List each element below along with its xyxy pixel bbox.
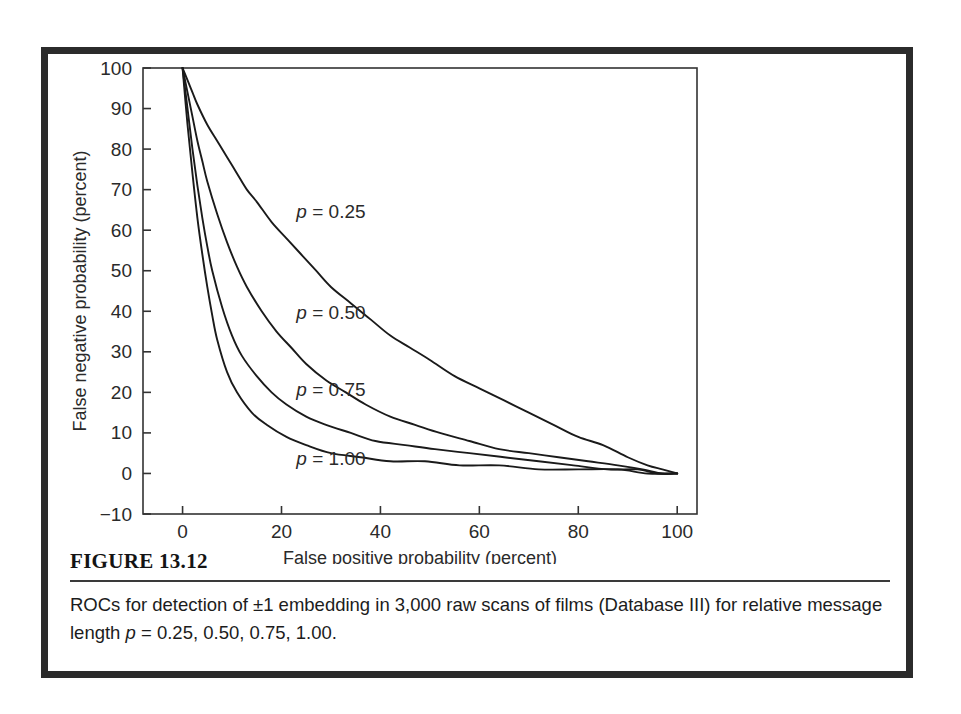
roc-curve	[183, 68, 678, 473]
roc-curve	[183, 68, 678, 474]
y-axis-tick-label: 80	[111, 139, 132, 160]
figure-inner: −100102030405060708090100020406080100Fal…	[48, 54, 906, 671]
x-axis-tick-label: 40	[370, 521, 391, 542]
caption-suffix: = 0.25, 0.50, 0.75, 1.00.	[136, 622, 337, 643]
roc-chart: −100102030405060708090100020406080100Fal…	[48, 54, 920, 564]
x-axis-tick-label: 20	[271, 521, 292, 542]
y-axis-tick-label: 30	[111, 341, 132, 362]
y-axis-tick-label: 70	[111, 179, 132, 200]
series-annotation-label: p = 0.75	[295, 379, 365, 400]
y-axis-tick-label: −10	[100, 504, 132, 525]
x-axis-tick-label: 100	[661, 521, 693, 542]
series-annotation-value: = 0.25	[307, 201, 366, 222]
y-axis-tick-label: 50	[111, 260, 132, 281]
y-axis-tick-label: 40	[111, 301, 132, 322]
y-axis-tick-label: 20	[111, 382, 132, 403]
figure-number-label: FIGURE 13.12	[70, 549, 890, 574]
figure-frame: −100102030405060708090100020406080100Fal…	[41, 47, 913, 678]
figure-caption-text: ROCs for detection of ±1 embedding in 3,…	[70, 591, 885, 647]
series-annotation-p: p	[295, 448, 307, 469]
y-axis-tick-label: 10	[111, 422, 132, 443]
series-annotation-p: p	[295, 302, 307, 323]
roc-curve	[183, 68, 678, 474]
series-annotation-value: = 0.75	[307, 379, 366, 400]
figure-caption-block: FIGURE 13.12 ROCs for detection of ±1 em…	[70, 549, 890, 647]
series-annotation-label: p = 0.50	[295, 302, 365, 323]
series-annotation-p: p	[295, 379, 307, 400]
caption-italic-p: p	[126, 622, 136, 643]
series-annotation-value: = 1.00	[307, 448, 366, 469]
series-annotation-value: = 0.50	[307, 302, 366, 323]
roc-plot-svg: −100102030405060708090100020406080100Fal…	[48, 54, 920, 564]
x-axis-tick-label: 80	[568, 521, 589, 542]
series-annotation-p: p	[295, 201, 307, 222]
roc-curve	[183, 68, 678, 474]
y-axis-title: False negative probability (percent)	[70, 150, 90, 431]
series-annotation-label: p = 1.00	[295, 448, 365, 469]
series-annotation-label: p = 0.25	[295, 201, 365, 222]
y-axis-tick-label: 90	[111, 98, 132, 119]
x-axis-tick-label: 60	[469, 521, 490, 542]
y-axis-tick-label: 0	[121, 463, 132, 484]
x-axis-tick-label: 0	[177, 521, 188, 542]
y-axis-tick-label: 60	[111, 220, 132, 241]
y-axis-tick-label: 100	[100, 58, 132, 79]
caption-divider	[70, 580, 890, 582]
